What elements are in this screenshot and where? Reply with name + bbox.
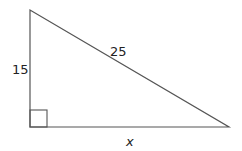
triangle-svg: 15 25 x xyxy=(0,0,242,151)
horizontal-leg-label: x xyxy=(125,134,134,149)
triangle-diagram: 15 25 x xyxy=(0,0,242,151)
right-angle-marker xyxy=(30,110,47,127)
hypotenuse-label: 25 xyxy=(110,44,127,59)
triangle-outline xyxy=(30,10,229,127)
vertical-leg-label: 15 xyxy=(12,62,29,77)
